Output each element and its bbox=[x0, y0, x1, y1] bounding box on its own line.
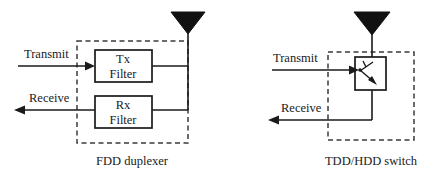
fdd-transmit-arrowhead bbox=[85, 62, 95, 71]
tx-filter-label-line1: Tx bbox=[116, 52, 131, 66]
diagram-canvas: Transmit Receive Tx Filter Rx Filter FDD… bbox=[0, 0, 430, 178]
tdd-receive-label: Receive bbox=[281, 101, 322, 115]
tdd-receive-arrowhead bbox=[268, 116, 279, 125]
tdd-transmit-label: Transmit bbox=[273, 51, 318, 65]
fdd-receive-label: Receive bbox=[29, 91, 70, 105]
tx-filter-label-line2: Filter bbox=[109, 67, 137, 81]
fdd-receive-arrowhead bbox=[14, 106, 25, 115]
fdd-transmit-label: Transmit bbox=[24, 47, 69, 61]
rx-filter-label-line2: Filter bbox=[109, 113, 137, 127]
antenna-triangle-icon bbox=[171, 12, 205, 110]
figure-root: Transmit Receive Tx Filter Rx Filter FDD… bbox=[0, 0, 430, 178]
tdd-switch-group bbox=[268, 12, 414, 140]
rx-filter-label-line1: Rx bbox=[116, 98, 131, 112]
fdd-caption: FDD duplexer bbox=[96, 154, 169, 168]
tdd-caption: TDD/HDD switch bbox=[325, 154, 418, 168]
switch-box bbox=[355, 57, 386, 90]
